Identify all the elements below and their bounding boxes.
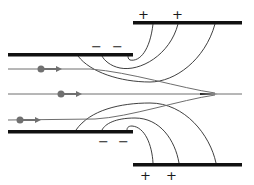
arrow-right-icon: [76, 91, 82, 97]
arrow-right-icon: [56, 66, 62, 72]
upper-inner-charge-1: −: [91, 39, 102, 54]
lower-outer-plate: [133, 163, 242, 167]
lower-inner-plate: [8, 130, 133, 134]
upper-outer-plate: [133, 21, 242, 25]
upper-outer-charge-1: +: [138, 7, 149, 22]
lower-inner-charge-2: −: [118, 134, 129, 149]
lower-outer-charge-2: +: [166, 168, 177, 183]
electrostatic-lens-diagram: + + − − − − + +: [0, 0, 254, 185]
lower-particle: [17, 117, 42, 124]
focal-point: [200, 93, 218, 95]
upper-particle: [38, 66, 63, 73]
lower-outer-charge-1: +: [140, 168, 151, 183]
middle-particle: [58, 91, 83, 98]
upper-inner-charge-2: −: [112, 39, 123, 54]
arrow-right-icon: [35, 117, 41, 123]
lower-inner-charge-1: −: [98, 134, 109, 149]
upper-outer-charge-2: +: [172, 7, 183, 22]
